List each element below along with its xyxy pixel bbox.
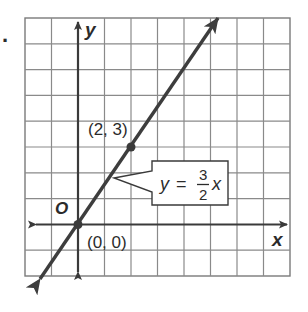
- coordinate-graph: . y x O (2, 3) (0, 0) y = 3: [0, 0, 308, 312]
- equation-equals: =: [176, 174, 187, 194]
- point-label-2-3: (2, 3): [88, 120, 128, 139]
- point-label-origin: (0, 0): [87, 233, 127, 252]
- problem-number-marker: .: [2, 22, 8, 47]
- origin-label: O: [55, 199, 68, 218]
- point-origin: [74, 220, 83, 229]
- point-2-3: [127, 143, 136, 152]
- grid: [25, 18, 290, 276]
- y-axis-label: y: [84, 19, 97, 40]
- equation-numerator: 3: [199, 166, 207, 183]
- equation-denominator: 2: [199, 186, 207, 203]
- equation-lhs: y: [158, 174, 170, 194]
- equation-variable: x: [211, 174, 222, 194]
- x-axis-label: x: [271, 229, 284, 250]
